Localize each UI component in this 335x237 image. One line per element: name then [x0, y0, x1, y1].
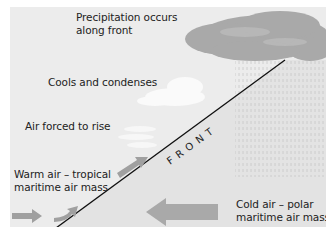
- warm-air-arrow-icon: [12, 209, 42, 223]
- label-line: maritime air mass: [236, 211, 326, 224]
- label-line: Warm air – tropical: [14, 168, 111, 181]
- front-diagram-art: FRONT: [10, 7, 326, 227]
- label-warm-air: Warm air – tropical maritime air mass: [14, 168, 111, 194]
- rising-air-wisps-icon: [118, 126, 157, 148]
- label-cold-air: Cold air – polar maritime air mass: [236, 198, 326, 224]
- label-air-forced-rise: Air forced to rise: [25, 120, 110, 133]
- label-line: maritime air mass: [14, 181, 111, 194]
- label-cools-condenses: Cools and condenses: [48, 76, 157, 89]
- label-precipitation: Precipitation occurs along front: [76, 11, 177, 37]
- diagram-panel: FRONT Precipitation occurs along front C…: [10, 7, 326, 227]
- label-line: along front: [76, 24, 177, 37]
- rain-icon: [235, 57, 326, 177]
- label-line: Cold air – polar: [236, 198, 326, 211]
- label-line: Precipitation occurs: [76, 11, 177, 24]
